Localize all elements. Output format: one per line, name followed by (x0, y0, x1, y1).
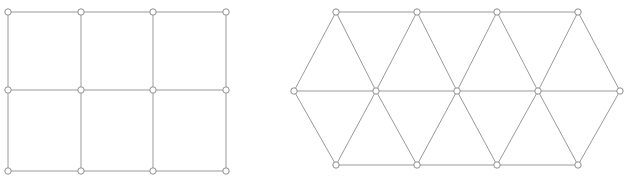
lattice-node (291, 88, 297, 94)
lattice-node (78, 168, 84, 174)
lattice-node (333, 9, 339, 15)
lattice-node (494, 162, 500, 168)
lattice-node (575, 9, 581, 15)
lattice-node (617, 88, 623, 94)
lattice-node (5, 168, 11, 174)
lattice-node (414, 162, 420, 168)
lattice-node (373, 88, 379, 94)
lattice-node (494, 9, 500, 15)
lattice-node (535, 88, 541, 94)
lattice-node (5, 87, 11, 93)
lattice-node (575, 162, 581, 168)
lattice-node (150, 9, 156, 15)
lattice-figure (0, 0, 627, 183)
lattice-node (78, 87, 84, 93)
lattice-node (454, 88, 460, 94)
lattice-node (223, 87, 229, 93)
lattice-node (78, 9, 84, 15)
lattice-node (150, 87, 156, 93)
lattice-node (333, 162, 339, 168)
lattice-node (223, 9, 229, 15)
lattice-node (5, 9, 11, 15)
lattice-node (150, 168, 156, 174)
lattice-node (414, 9, 420, 15)
lattice-node (223, 168, 229, 174)
